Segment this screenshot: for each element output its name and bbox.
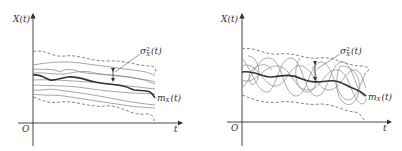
left-envelope <box>33 51 156 121</box>
left-mean-label: m X (t) <box>157 94 181 103</box>
mean-sub: X <box>166 98 170 103</box>
random-process-figure: X(t) O t σ 2X (t) m X (t) X(t) O t σ 2X … <box>0 0 402 151</box>
right-mean-curve <box>242 72 366 96</box>
left-panel <box>18 14 182 146</box>
right-panel <box>227 14 391 146</box>
variance-arg: (t) <box>151 47 162 56</box>
left-x-axis-label: t <box>174 125 178 134</box>
left-sample-functions <box>33 62 155 108</box>
variance-arg: (t) <box>351 47 362 56</box>
left-variance-label: σ 2X (t) <box>140 47 162 57</box>
right-x-axis-label: t <box>383 124 387 133</box>
left-origin-label: O <box>22 125 29 134</box>
mean-sub: X <box>377 97 381 102</box>
right-y-axis-label: X(t) <box>221 15 238 24</box>
left-y-axis-label: X(t) <box>13 15 30 24</box>
variance-sub: X <box>146 52 150 57</box>
mean-arg: (t) <box>170 94 181 103</box>
variance-sub: X <box>346 52 350 57</box>
plots-canvas <box>0 0 402 151</box>
mean-symbol: m <box>157 94 166 103</box>
right-mean-label: m X (t) <box>368 93 392 102</box>
right-origin-label: O <box>231 124 238 133</box>
mean-arg: (t) <box>381 93 392 102</box>
right-variance-label: σ 2X (t) <box>340 47 362 57</box>
mean-symbol: m <box>368 93 377 102</box>
